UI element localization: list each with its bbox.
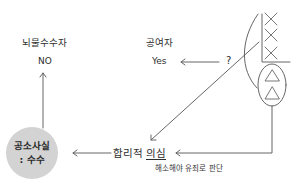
verdict-note: 해소해야 유죄로 판단 — [155, 165, 223, 173]
x-mark-icon — [265, 13, 277, 25]
x-mark-icon — [265, 47, 277, 59]
arrow-diagonal-to-doubt — [151, 42, 259, 140]
reasonable-doubt-label: 합리적 의심 — [113, 148, 166, 159]
reasonable-doubt-prefix: 합리적 — [113, 147, 146, 159]
indicted-fact-node: 공소사실 : 수수 — [6, 127, 58, 179]
x-bracket — [262, 14, 290, 62]
arrow-question-to-yes — [181, 59, 219, 65]
bribe-receiver-title: 뇌물수수자 — [22, 38, 67, 48]
x-mark-icon — [265, 29, 277, 41]
legal-judgment-diagram: .ln { stroke: #555; stroke-width: 0.9; f… — [0, 0, 301, 185]
reasonable-doubt-underlined: 의심 — [146, 147, 166, 160]
triangle-mark-icon — [265, 70, 279, 81]
triangle-mark-icon — [265, 87, 279, 99]
bribe-giver-title: 공여자 — [146, 38, 173, 48]
bribe-giver-value: Yes — [152, 57, 167, 66]
evidence-arc — [244, 14, 258, 88]
question-mark-label: ? — [226, 56, 231, 66]
bribe-receiver-value: NO — [38, 57, 52, 66]
arrow-fact-to-no — [40, 73, 46, 128]
arrow-doubt-to-fact — [73, 150, 111, 156]
indicted-fact-line2: : 수수 — [19, 153, 44, 167]
indicted-fact-line1: 공소사실 — [14, 139, 50, 153]
arrow-triangles-to-doubt — [176, 106, 272, 156]
